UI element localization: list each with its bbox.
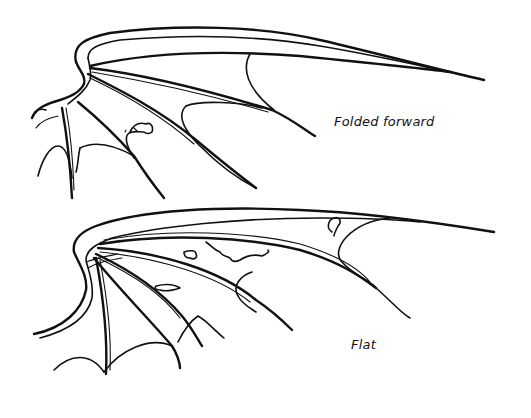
wing-flat-drawing bbox=[0, 0, 531, 418]
label-flat: Flat bbox=[351, 337, 376, 352]
label-folded-forward: Folded forward bbox=[334, 114, 435, 129]
illustration-canvas: Folded forward Flat bbox=[0, 0, 531, 418]
